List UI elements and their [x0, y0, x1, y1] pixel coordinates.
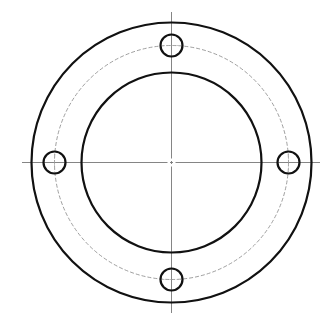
drawing-svg [0, 0, 322, 329]
flange-drawing: Flange with 4 bolt holes [0, 0, 322, 329]
